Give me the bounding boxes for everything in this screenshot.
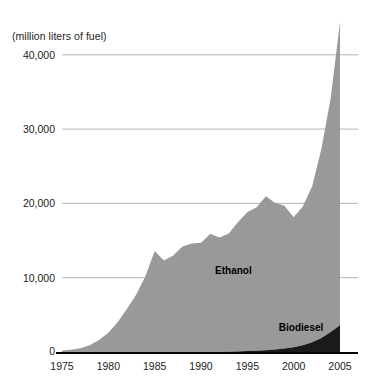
series-label-biodiesel: Biodiesel <box>279 322 323 333</box>
x-axis-tick-label: 1975 <box>42 360 82 372</box>
x-axis-tick-label: 2000 <box>274 360 314 372</box>
y-axis-tick-label: 0 <box>3 345 55 357</box>
area-ethanol <box>62 22 340 352</box>
y-axis-tick-label: 30,000 <box>3 123 55 135</box>
biofuel-area-chart: (million liters of fuel) 010,00020,00030… <box>0 0 365 388</box>
x-axis-tick-label: 1980 <box>88 360 128 372</box>
x-axis-tick-label: 1990 <box>181 360 221 372</box>
y-axis-tick-label: 20,000 <box>3 197 55 209</box>
y-axis-tick-label: 10,000 <box>3 272 55 284</box>
y-axis-tick-label: 40,000 <box>3 49 55 61</box>
series-label-ethanol: Ethanol <box>215 265 252 276</box>
x-axis-tick-label: 1985 <box>135 360 175 372</box>
stacked-area-series <box>62 22 340 352</box>
x-axis-tick-label: 2005 <box>320 360 360 372</box>
x-axis-tick-label: 1995 <box>227 360 267 372</box>
y-axis-tick-labels: 010,00020,00030,00040,000 <box>0 0 55 388</box>
